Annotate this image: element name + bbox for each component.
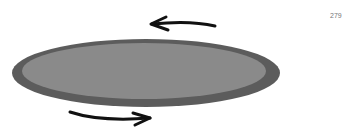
disk <box>12 39 280 107</box>
arrow-left-icon <box>151 17 215 30</box>
arrow-right-icon <box>70 112 150 125</box>
rotating-disk-diagram <box>0 0 351 139</box>
